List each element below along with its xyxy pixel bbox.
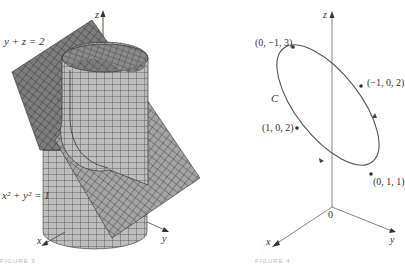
y-axis xyxy=(147,222,165,230)
figure-plane-cylinder: z y + z = 2 x² + y² = 1 x y FIGURE 3 xyxy=(0,0,205,265)
plane-equation-label: y + z = 2 xyxy=(4,36,45,47)
x-axis-label: x xyxy=(37,236,41,246)
point-label: (0, −1, 3) xyxy=(255,38,292,48)
curve-direction-arrow-icon xyxy=(319,158,324,163)
y-axis-label: y xyxy=(390,235,394,245)
y-axis-arrow-icon xyxy=(162,227,169,232)
x-axis-arrow-icon xyxy=(272,240,280,247)
point-label: (1, 0, 2) xyxy=(262,123,294,133)
point-label: (−1, 0, 2) xyxy=(367,78,404,88)
point-neg1-0-2 xyxy=(359,84,363,88)
z-axis-arrow-icon xyxy=(101,10,106,17)
y-axis-arrow-icon xyxy=(389,228,396,233)
figure-caption: FIGURE 4 xyxy=(255,258,291,264)
curve-c-graphic xyxy=(200,0,405,265)
x-axis xyxy=(276,207,332,244)
y-axis-label: y xyxy=(162,234,166,244)
point-1-0-2 xyxy=(295,126,299,130)
origin-label: 0 xyxy=(328,210,333,220)
x-axis-label: x xyxy=(266,237,270,247)
figure-caption: FIGURE 3 xyxy=(0,258,36,264)
curve-direction-arrow-icon xyxy=(372,113,377,118)
cylinder-equation-label: x² + y² = 1 xyxy=(2,190,50,201)
x-axis-arrow-icon xyxy=(41,240,48,246)
z-axis-arrow-icon xyxy=(330,11,335,18)
curve-c xyxy=(258,29,397,182)
z-axis-label: z xyxy=(323,10,327,20)
point-label: (0, 1, 1) xyxy=(373,177,405,187)
y-axis xyxy=(332,207,392,231)
z-axis-label: z xyxy=(95,10,99,20)
curve-name-label: C xyxy=(271,93,278,104)
figure-curve-c: z (0, −1, 3) (−1, 0, 2) C (1, 0, 2) (0, … xyxy=(200,0,405,265)
